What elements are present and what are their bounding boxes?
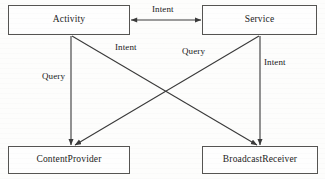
node-activity-label: Activity bbox=[53, 15, 85, 25]
node-broadcastreceiver[interactable]: BroadcastReceiver bbox=[202, 146, 318, 174]
edge-label-activity-broadcastreceiver: Intent bbox=[115, 43, 137, 52]
node-broadcastreceiver-label: BroadcastReceiver bbox=[223, 155, 297, 165]
edge-label-activity-service: Intent bbox=[152, 5, 174, 14]
edge-service-contentprovider bbox=[75, 36, 259, 145]
diagram-canvas: Activity Service ContentProvider Broadca… bbox=[0, 0, 325, 179]
edge-activity-broadcastreceiver bbox=[72, 36, 257, 145]
node-service-label: Service bbox=[245, 15, 275, 25]
node-contentprovider-label: ContentProvider bbox=[36, 155, 101, 165]
node-service[interactable]: Service bbox=[202, 5, 317, 35]
edge-label-service-contentprovider: Query bbox=[182, 47, 205, 56]
edge-label-service-broadcastreceiver: Intent bbox=[264, 58, 286, 67]
edge-label-activity-contentprovider: Query bbox=[42, 72, 65, 81]
node-activity[interactable]: Activity bbox=[8, 5, 130, 35]
node-contentprovider[interactable]: ContentProvider bbox=[8, 146, 130, 174]
